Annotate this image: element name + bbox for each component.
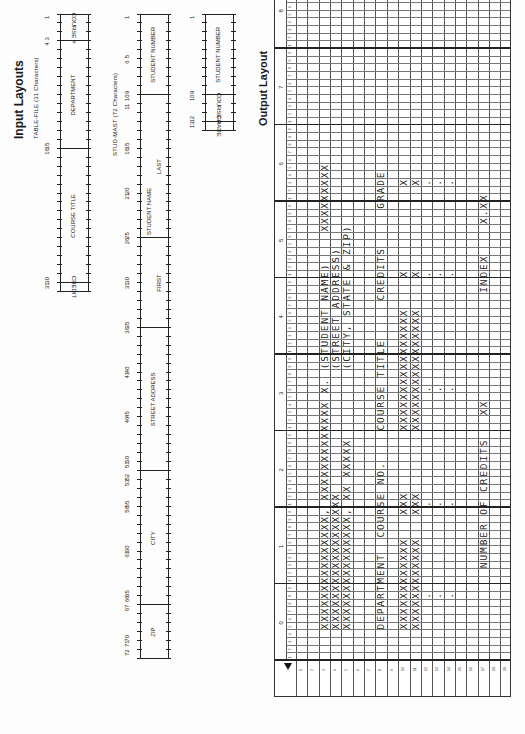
field-label: STREET ADDRESS: [150, 372, 157, 426]
print-field: .: [444, 591, 455, 599]
position-number: 1: [189, 16, 195, 19]
column-line: [286, 239, 510, 240]
ruler-tick: [137, 640, 142, 641]
column-unit-label: 1: [288, 274, 292, 276]
ruler-tick: [202, 58, 207, 59]
column-unit-label: 5: [288, 90, 292, 92]
ruler-tick: [137, 246, 142, 247]
column-line: [286, 645, 510, 646]
print-field: XXXXXXXXXXXXXXXXXX: [330, 492, 341, 629]
ruler-tick: [202, 22, 207, 23]
ruler-tick: [137, 425, 142, 426]
column-unit-label: 6: [288, 312, 292, 314]
field-label: STUDENT NUMBER: [215, 27, 222, 83]
print-field: .: [421, 591, 432, 599]
ruler-tick: [166, 524, 171, 525]
column-unit-label: 8: [288, 526, 292, 528]
ruler-tick: [86, 121, 91, 122]
position-number: 26: [124, 238, 130, 245]
ruler-tick: [86, 76, 91, 77]
field-label: STUDENT NAME: [146, 188, 153, 235]
ruler-tick: [137, 255, 142, 256]
column-line: [275, 124, 510, 126]
ruler-tick: [166, 31, 171, 32]
ruler-tick: [137, 577, 142, 578]
ruler-tick: [86, 139, 91, 140]
column-unit-label: 3: [288, 105, 292, 107]
position-number: 71: [124, 640, 130, 647]
print-field: INDEX: [478, 255, 489, 293]
ruler-tick: [202, 67, 207, 68]
ruler-tick: [166, 22, 171, 23]
ruler-tick: [231, 22, 236, 23]
column-line: [286, 79, 510, 80]
ruler-tick: [137, 363, 142, 364]
column-unit-label: 6: [288, 82, 292, 84]
ruler-tick: [166, 228, 171, 229]
row-number: 6: [356, 669, 360, 671]
column-unit-label: 7: [288, 610, 292, 612]
column-unit-label: 3: [288, 641, 292, 643]
field-boundary: [140, 604, 168, 605]
ruler-tick: [231, 49, 236, 50]
ruler-tick: [166, 76, 171, 77]
row-number: 19: [503, 667, 507, 671]
column-unit-label: 9: [288, 366, 292, 368]
row-number: 13: [435, 667, 439, 671]
column-line: [286, 2, 510, 3]
row-number: 7: [367, 669, 371, 671]
column-line: [286, 132, 510, 133]
ruler-tick: [166, 309, 171, 310]
print-field: X: [398, 270, 409, 278]
ruler-tick: [166, 282, 171, 283]
ruler-tick: [57, 67, 62, 68]
ruler-tick: [166, 542, 171, 543]
ruler-tick: [166, 130, 171, 131]
ruler-tick: [137, 309, 142, 310]
ruler-tick: [57, 273, 62, 274]
print-field: XX: [478, 400, 489, 415]
ruler-tick: [166, 193, 171, 194]
ruler-top-line: [60, 15, 61, 292]
ruler-tick: [166, 407, 171, 408]
ruler-tick: [137, 631, 142, 632]
column-unit-label: 0: [288, 281, 292, 283]
print-field: (STREET ADDRESS): [330, 247, 341, 369]
field-label: STUDENT NUMBER: [150, 27, 157, 83]
ruler-tick: [57, 31, 62, 32]
column-line: [286, 40, 510, 41]
ruler-tick: [231, 76, 236, 77]
print-field: XXXXXXXXXXXXXXX, XX XXXXX: [341, 439, 352, 630]
field-boundary: [140, 94, 168, 95]
print-field: CREDITS: [375, 247, 386, 300]
ruler-tick: [166, 246, 171, 247]
print-field: .: [444, 178, 455, 186]
column-unit-label: 8: [288, 603, 292, 605]
pointer-arrow-icon: [284, 663, 292, 670]
ruler-tick: [86, 175, 91, 176]
print-field: X.XX: [478, 193, 489, 223]
ruler-tick: [137, 157, 142, 158]
column-unit-label: 3: [288, 29, 292, 31]
position-number: 16: [44, 148, 50, 155]
field-label: CREDIT: [70, 276, 77, 298]
ruler-tick: [86, 166, 91, 167]
print-field: .: [421, 499, 432, 507]
ruler-tick: [166, 479, 171, 480]
ruler-tick: [57, 228, 62, 229]
ruler-tick: [137, 112, 142, 113]
ruler-tick: [166, 85, 171, 86]
ruler-tick: [57, 85, 62, 86]
ruler-tick: [137, 40, 142, 41]
column-line: [286, 94, 510, 95]
ruler-tick: [137, 175, 142, 176]
ruler-tick: [137, 649, 142, 650]
ruler-tick: [166, 425, 171, 426]
ruler-tick: [86, 264, 91, 265]
column-unit-label: 8: [288, 144, 292, 146]
ruler-tick: [137, 76, 142, 77]
column-unit-label: 2: [288, 113, 292, 115]
column-unit-label: 3: [288, 182, 292, 184]
ruler-tick: [137, 184, 142, 185]
ruler-tick: [231, 31, 236, 32]
